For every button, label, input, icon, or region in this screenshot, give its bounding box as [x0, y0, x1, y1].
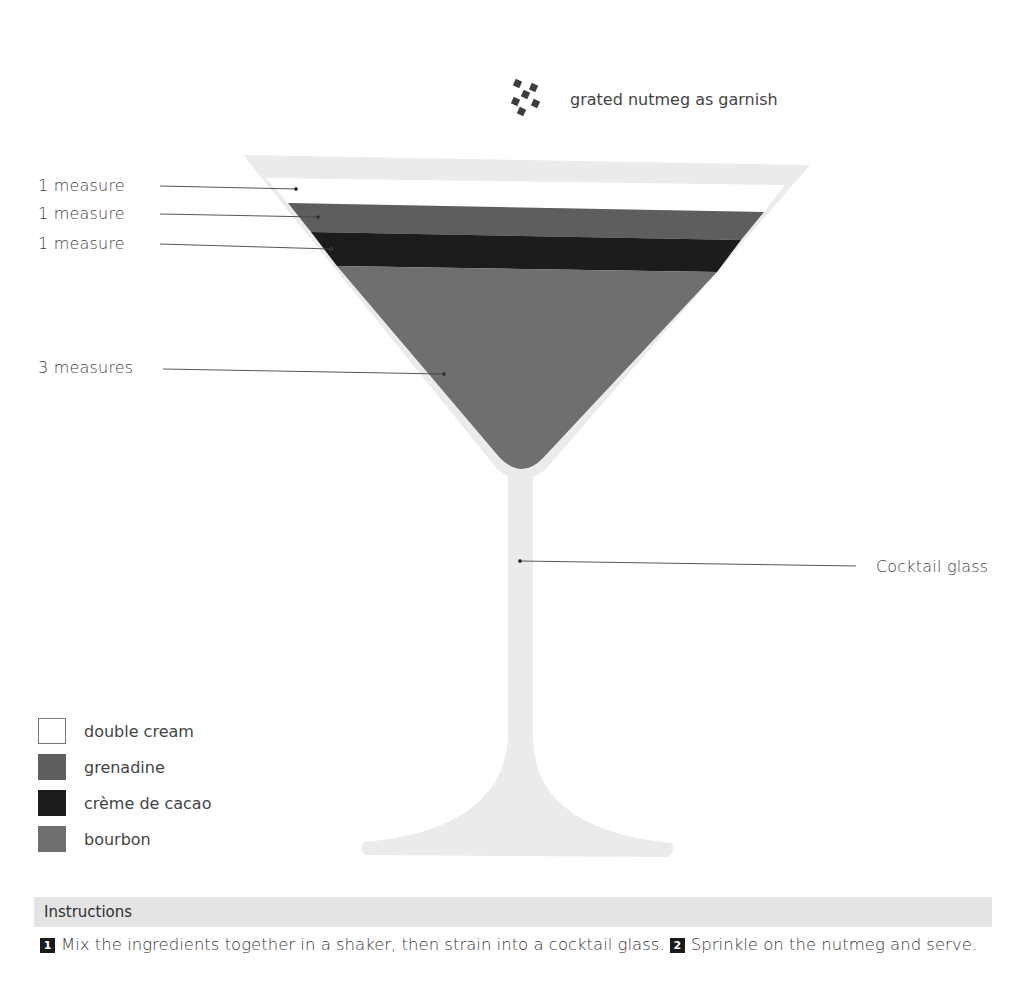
legend-label: crème de cacao	[84, 794, 211, 813]
instructions-header: Instructions	[34, 897, 992, 927]
legend-item-creme-de-cacao: crème de cacao	[38, 788, 211, 818]
measure-label-creme-de-cacao: 1 measure	[38, 234, 125, 253]
swatch-grenadine	[38, 754, 66, 780]
step-number-badge: 1	[40, 938, 55, 953]
glass-stem	[361, 470, 673, 857]
swatch-bourbon	[38, 826, 66, 852]
measure-label-bourbon: 3 measures	[38, 358, 133, 377]
step-text: Mix the ingredients together in a shaker…	[61, 935, 665, 954]
legend-label: bourbon	[84, 830, 151, 849]
instructions-text: 1Mix the ingredients together in a shake…	[40, 932, 1000, 958]
swatch-creme-de-cacao	[38, 790, 66, 816]
nutmeg-flakes-icon	[510, 78, 546, 120]
legend-item-bourbon: bourbon	[38, 824, 211, 854]
measure-label-double-cream: 1 measure	[38, 176, 125, 195]
measure-label-grenadine: 1 measure	[38, 204, 125, 223]
legend-item-grenadine: grenadine	[38, 752, 211, 782]
step-text: Sprinkle on the nutmeg and serve.	[691, 935, 977, 954]
step-number-badge: 2	[670, 938, 685, 953]
ingredient-legend: double cream grenadine crème de cacao bo…	[38, 716, 211, 860]
glass-type-label: Cocktail glass	[876, 557, 988, 576]
legend-label: grenadine	[84, 758, 165, 777]
legend-item-double-cream: double cream	[38, 716, 211, 746]
instructions-title: Instructions	[44, 903, 132, 921]
swatch-double-cream	[38, 718, 66, 744]
garnish-label: grated nutmeg as garnish	[570, 90, 778, 109]
legend-label: double cream	[84, 722, 194, 741]
layer-bourbon	[337, 266, 717, 469]
garnish-callout: grated nutmeg as garnish	[510, 78, 778, 120]
